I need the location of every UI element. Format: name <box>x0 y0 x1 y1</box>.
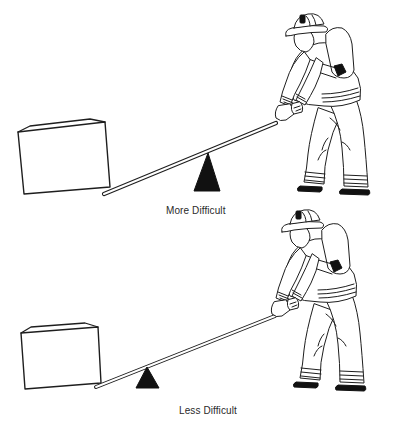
caption-more-difficult: More Difficult <box>166 205 226 216</box>
lever-bar-top <box>104 123 276 194</box>
lever-comparison-figure: More Difficult Less Difficult <box>0 0 403 434</box>
panel-top <box>18 14 370 195</box>
fulcrum-top <box>194 153 220 191</box>
load-box-bottom <box>21 323 101 389</box>
panel-bottom <box>21 210 366 391</box>
firefighter-bottom <box>271 210 365 391</box>
lever-bar-bottom <box>96 316 275 387</box>
firefighter-top <box>275 14 369 195</box>
caption-less-difficult: Less Difficult <box>179 405 237 416</box>
load-box-top <box>18 119 110 194</box>
illustration-canvas <box>0 0 403 434</box>
